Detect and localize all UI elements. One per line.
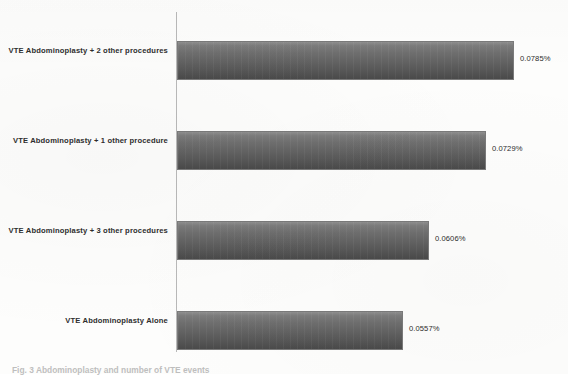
bar-value-label: 0.0729% <box>492 144 523 153</box>
bar-value-label: 0.0606% <box>435 234 466 243</box>
bar-value-label: 0.0785% <box>520 54 551 63</box>
bar-category-label: VTE Abdominoplasty + 3 other procedures <box>8 226 168 236</box>
bar-row: VTE Abdominoplasty + 1 other procedure 0… <box>0 102 568 192</box>
bar-value-label: 0.0557% <box>409 324 440 333</box>
figure-caption: Fig. 3 Abdominoplasty and number of VTE … <box>12 365 262 379</box>
bar-segment <box>177 131 486 170</box>
bar-segment <box>177 221 429 260</box>
bar-category-label: VTE Abdominoplasty + 2 other procedures <box>8 46 168 56</box>
bar-category-label: VTE Abdominoplasty Alone <box>8 316 168 326</box>
bar-row: VTE Abdominoplasty + 2 other procedures … <box>0 12 568 102</box>
bar-category-label: VTE Abdominoplasty + 1 other procedure <box>8 136 168 146</box>
bar-chart-plot-area: VTE Abdominoplasty + 2 other procedures … <box>0 0 568 352</box>
bar-row: VTE Abdominoplasty + 3 other procedures … <box>0 192 568 282</box>
bar-segment <box>177 311 403 350</box>
bar-row: VTE Abdominoplasty Alone 0.0557% <box>0 282 568 372</box>
bar-segment <box>177 41 514 80</box>
